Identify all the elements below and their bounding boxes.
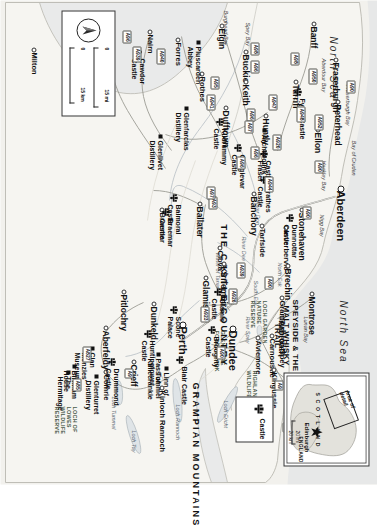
town-marker-pitlochry <box>121 289 126 294</box>
inset-inner-frame: Area ofdetail S C O T L A N D ENGLAND Ed… <box>286 375 366 463</box>
castle-icon-huntingtower-castle <box>148 329 157 338</box>
castle-icon-drummond-castle <box>112 357 121 366</box>
town-marker-turriff <box>293 79 298 84</box>
road-shield-a941-16: A941 <box>206 94 215 110</box>
town-label-montrose: Montrose <box>307 296 316 334</box>
road-shield-a920-7: A920 <box>272 134 281 150</box>
scale-bar-box: 0 15 mi 0 15 km <box>61 10 115 116</box>
map-legend: Castle <box>235 396 273 442</box>
town-label-buckie: Buckie <box>241 54 250 82</box>
road-shield-a9-24: A9 <box>274 380 283 390</box>
water-label-loch-rannoch: Loch Rannoch <box>174 404 180 439</box>
road-shield-a939-22: A939 <box>132 46 141 62</box>
scale-label-miles: 15 mi <box>103 89 108 102</box>
town-label-aviemore: Aviemore <box>254 340 262 374</box>
water-label-loch-tay: Loch Tay <box>130 430 136 452</box>
inset-edinburgh-label: Edinburgh <box>303 422 309 452</box>
castle-icon-dunnottar-castle <box>290 213 299 222</box>
town-marker-elgin <box>219 23 224 28</box>
scale-zero-km: 0 <box>79 47 84 50</box>
castle-icon-broughty-castle <box>212 325 221 334</box>
town-marker-kirriemuir <box>221 261 226 266</box>
castle-label-drummond-castle: Drummond Castle <box>104 368 119 412</box>
scale-zero-mi: 0 <box>103 47 108 50</box>
town-label-dundee: Dundee <box>226 330 237 370</box>
castle-label-braemar-castle: Braemar Castle <box>158 218 173 262</box>
attraction-marker-the-hermitage <box>67 370 71 374</box>
castle-label-cawdor-castle: Cawdor Castle <box>130 58 145 102</box>
road-shield-a96-13: A96 <box>236 156 245 169</box>
sea-label-north-sea-1: North Sea <box>337 300 347 363</box>
scale-ruler-miles <box>93 47 98 107</box>
road-shield-a950-1: A950 <box>308 68 317 84</box>
town-label-glamis: Glamis <box>201 280 210 308</box>
town-marker-huntly <box>263 113 268 118</box>
town-marker-kingussie <box>271 367 276 372</box>
town-label-peterhead: Peterhead <box>333 104 342 145</box>
road-shield-a827-27: A827 <box>82 346 91 362</box>
road-shield-a90-32: A90 <box>264 276 273 289</box>
attraction-marker-pluscarden-abbey <box>197 40 201 44</box>
castle-label-dunnottar-castle: Dunnottar Castle <box>282 224 297 268</box>
attraction-marker-birnham-house <box>73 364 77 368</box>
compass-north-arrow <box>76 18 100 42</box>
attraction-label-glenturret-distillery: Glenturret Distillery <box>84 380 99 424</box>
attraction-marker-glenlivet-distillery <box>159 134 163 138</box>
legend-castle-icon <box>249 403 267 414</box>
town-marker-milton <box>31 47 36 52</box>
road-shield-a940-21: A940 <box>156 48 165 64</box>
road-shield-a97-19: A97 <box>206 186 215 199</box>
water-label-river-spey: River Spey <box>244 316 250 343</box>
castle-icon-craigievar-castle <box>238 143 247 152</box>
town-marker-buckie <box>243 49 248 54</box>
inset-scale-ruler <box>291 420 295 444</box>
water-label-north-esk: North Esk <box>276 262 282 286</box>
castle-label-crathes-castle: Crathes Castle <box>256 186 271 230</box>
town-marker-aberfeldy <box>103 325 108 330</box>
road-shield-a85-28: A85 <box>72 378 81 391</box>
road-shield-a96-8: A96 <box>246 108 255 121</box>
attraction-marker-linn-of-tummel <box>165 366 169 370</box>
castle-label-scone-palace: Scone Palace <box>166 316 181 360</box>
attraction-label-glenlivet-distillery: Glenlivet Distillery <box>148 140 163 184</box>
road-shield-a944-14: A944 <box>264 176 273 192</box>
water-label-loch-ericht: Loch Ericht <box>222 400 228 428</box>
road-shield-a90-5: A90 <box>314 160 323 173</box>
town-marker-forres <box>175 37 180 42</box>
road-shield-a98-2: A98 <box>290 52 299 65</box>
attraction-marker-pass-of-killiecrankie <box>157 352 161 356</box>
water-label-river-dee: River Dee <box>240 236 246 260</box>
town-marker-grantown-on-spey <box>279 295 284 300</box>
castle-icon-kildrummy-castle <box>220 117 229 126</box>
town-marker-dufftown <box>223 105 228 110</box>
town-marker-montrose <box>309 291 314 296</box>
attraction-label-pluscarden-abbey: Pluscarden Abbey <box>186 46 201 90</box>
road-shield-a96-23: A96 <box>122 30 131 43</box>
castle-icon-scone-palace <box>174 305 183 314</box>
attraction-marker-glenfarclas-distillery <box>185 106 189 110</box>
scale-label-km: 15 km <box>79 87 84 101</box>
bay-label-aberdour-bay: Aberdour Bay <box>320 58 326 92</box>
inset-scotland-label: S C O T L A N D <box>314 392 319 447</box>
road-shield-a98-10: A98 <box>250 42 259 55</box>
bay-label-spey-bay: Spey Bay <box>244 22 250 46</box>
castle-label-kildrummy-castle: Kildrummy Castle <box>212 128 227 172</box>
town-label-aberdeen: Aberdeen <box>334 190 345 241</box>
road-shield-a9-26: A9 <box>124 368 133 378</box>
castle-label-glamis-castle: Glamis Castle <box>210 298 225 342</box>
town-marker-ballater <box>197 201 202 206</box>
town-label-grantown-on-spey: Grantown-on-Spey <box>278 300 286 367</box>
attraction-label-the-hermitage: The Hermitage <box>56 376 71 420</box>
region-label-grampian-mountains: GRAMPIAN MOUNTAINS <box>190 382 199 527</box>
town-label-ballater: Ballater <box>195 206 204 237</box>
legend-castle-label: Castle <box>258 418 265 439</box>
castle-icon-balmoral-castle <box>174 193 183 202</box>
town-label-keith: Keith <box>241 84 250 105</box>
road-shield-a939-20: A939 <box>236 262 245 278</box>
town-marker-glamis <box>203 275 208 280</box>
town-marker-clova <box>217 245 222 250</box>
castle-icon-fyvie-castle <box>298 87 307 96</box>
road-shield-a90-31: A90 <box>216 346 225 359</box>
